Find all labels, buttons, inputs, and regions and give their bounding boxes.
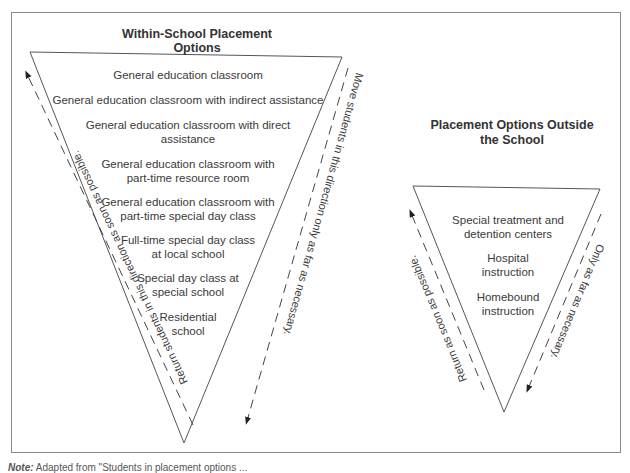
placement-item: General education classroom withpart-tim… (101, 157, 274, 185)
placement-item: General education classroom with indirec… (52, 93, 323, 107)
item-label: General education classroom with (101, 158, 274, 170)
placement-item: Residentialschool (160, 310, 217, 338)
placement-item: Full-time special day classat local scho… (121, 233, 255, 261)
note-prefix: Note: (8, 462, 34, 473)
item-label: Residential (160, 311, 217, 323)
outside-school-title: Placement Options Outsidethe School (427, 118, 597, 148)
item-label: at local school (152, 248, 225, 260)
item-label: General education classroom (113, 69, 263, 81)
item-label: school (171, 325, 204, 337)
outside-item: Special treatment anddetention centers (452, 213, 564, 241)
item-label: Full-time special day class (121, 234, 255, 246)
item-label: instruction (482, 266, 534, 278)
item-label: Homebound (477, 291, 540, 303)
item-label: General education classroom with (101, 196, 274, 208)
note-text: Adapted from "Students in placement opti… (36, 462, 247, 473)
item-label: General education classroom with direct (86, 119, 291, 131)
outside-item: Hospitalinstruction (482, 251, 534, 279)
item-label: part-time special day class (120, 210, 256, 222)
item-label: part-time resource room (127, 172, 250, 184)
placement-item: General education classroom withpart-tim… (101, 195, 274, 223)
placement-item: General education classroom (113, 68, 263, 82)
item-label: assistance (161, 133, 215, 145)
item-label: instruction (482, 305, 534, 317)
item-label: special school (152, 286, 224, 298)
item-label: Special day class at (137, 272, 239, 284)
item-label: Special treatment and (452, 214, 564, 226)
within-school-title: Within-School Placement Options (112, 27, 282, 55)
item-label: detention centers (464, 228, 552, 240)
item-label: Hospital (487, 252, 529, 264)
placement-item: General education classroom with directa… (86, 118, 291, 146)
source-note: Note: Adapted from "Students in placemen… (8, 462, 247, 473)
placement-item: Special day class atspecial school (137, 271, 239, 299)
outside-item: Homeboundinstruction (477, 290, 540, 318)
item-label: General education classroom with indirec… (52, 94, 323, 106)
title-line: the School (480, 133, 544, 147)
title-line: Placement Options Outside (430, 118, 593, 132)
